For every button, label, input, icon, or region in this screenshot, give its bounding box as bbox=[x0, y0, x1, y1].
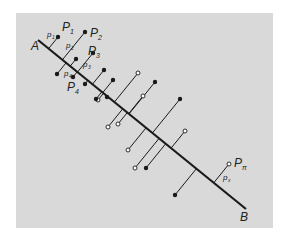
label-b: B bbox=[240, 210, 248, 224]
point-q21 bbox=[183, 129, 187, 133]
svg-text:1: 1 bbox=[70, 28, 74, 35]
point-q12 bbox=[94, 97, 98, 101]
svg-text:P: P bbox=[90, 26, 98, 40]
point-q13 bbox=[136, 71, 140, 75]
svg-text:1: 1 bbox=[52, 34, 55, 40]
svg-text:4: 4 bbox=[69, 73, 72, 79]
svg-text:3: 3 bbox=[96, 52, 100, 59]
point-P2 bbox=[83, 30, 87, 34]
svg-text:P: P bbox=[62, 20, 70, 34]
diagram-background bbox=[16, 13, 273, 228]
point-P3 bbox=[74, 57, 78, 61]
svg-text:P: P bbox=[67, 80, 75, 94]
point-q11 bbox=[105, 95, 109, 99]
point-P1 bbox=[56, 35, 60, 39]
point-q14 bbox=[116, 122, 120, 126]
svg-text:x: x bbox=[227, 177, 231, 183]
projection-diagram: A B P1 P2 P3 P4 Pπ p1 p2 p3 p4 px bbox=[0, 0, 286, 239]
point-q19 bbox=[178, 97, 182, 101]
point-q8 bbox=[83, 82, 87, 86]
point-q20 bbox=[133, 166, 137, 170]
point-q24 bbox=[173, 193, 177, 197]
svg-text:π: π bbox=[242, 164, 247, 171]
svg-text:4: 4 bbox=[75, 88, 79, 95]
point-q7 bbox=[102, 68, 106, 72]
point-q18 bbox=[126, 148, 130, 152]
svg-text:2: 2 bbox=[97, 34, 102, 41]
svg-text:2: 2 bbox=[70, 45, 74, 51]
label-a: A bbox=[30, 39, 39, 53]
point-q10 bbox=[111, 78, 115, 82]
svg-text:P: P bbox=[234, 156, 242, 170]
svg-text:3: 3 bbox=[88, 64, 91, 70]
point-P4 bbox=[55, 72, 59, 76]
point-q16 bbox=[106, 125, 110, 129]
point-q22 bbox=[144, 166, 148, 170]
svg-text:P: P bbox=[88, 44, 96, 58]
point-q17 bbox=[153, 80, 157, 84]
point-q15 bbox=[141, 94, 145, 98]
point-Pn bbox=[227, 162, 231, 166]
